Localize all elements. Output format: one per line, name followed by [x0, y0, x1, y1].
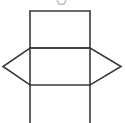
- geometric-figure: [0, 0, 125, 123]
- figure-background: [0, 0, 125, 123]
- figure-canvas: [0, 0, 125, 123]
